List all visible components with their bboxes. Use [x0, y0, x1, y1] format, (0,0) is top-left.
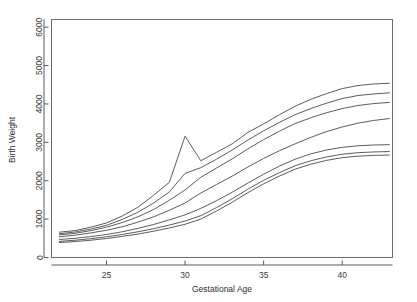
y-tick-label: 3000 — [35, 133, 45, 152]
x-axis-title: Gestational Age — [192, 284, 252, 294]
growth-chart: 25303540 0100020003000400050006000 Gesta… — [0, 0, 417, 302]
y-tick-label: 1000 — [35, 209, 45, 228]
x-tick-label: 40 — [337, 270, 347, 280]
chart-canvas: 25303540 0100020003000400050006000 Gesta… — [0, 0, 417, 302]
y-tick-label: 5000 — [35, 56, 45, 75]
y-tick-label: 4000 — [35, 94, 45, 113]
y-axis-title: Birth Weight — [7, 116, 17, 163]
x-tick-label: 25 — [102, 270, 112, 280]
y-tick-label: 6000 — [35, 17, 45, 36]
y-tick-label: 2000 — [35, 171, 45, 190]
x-tick-label: 35 — [259, 270, 269, 280]
x-tick-label: 30 — [180, 270, 190, 280]
y-tick-label: 0 — [35, 255, 45, 260]
chart-background — [0, 0, 417, 302]
